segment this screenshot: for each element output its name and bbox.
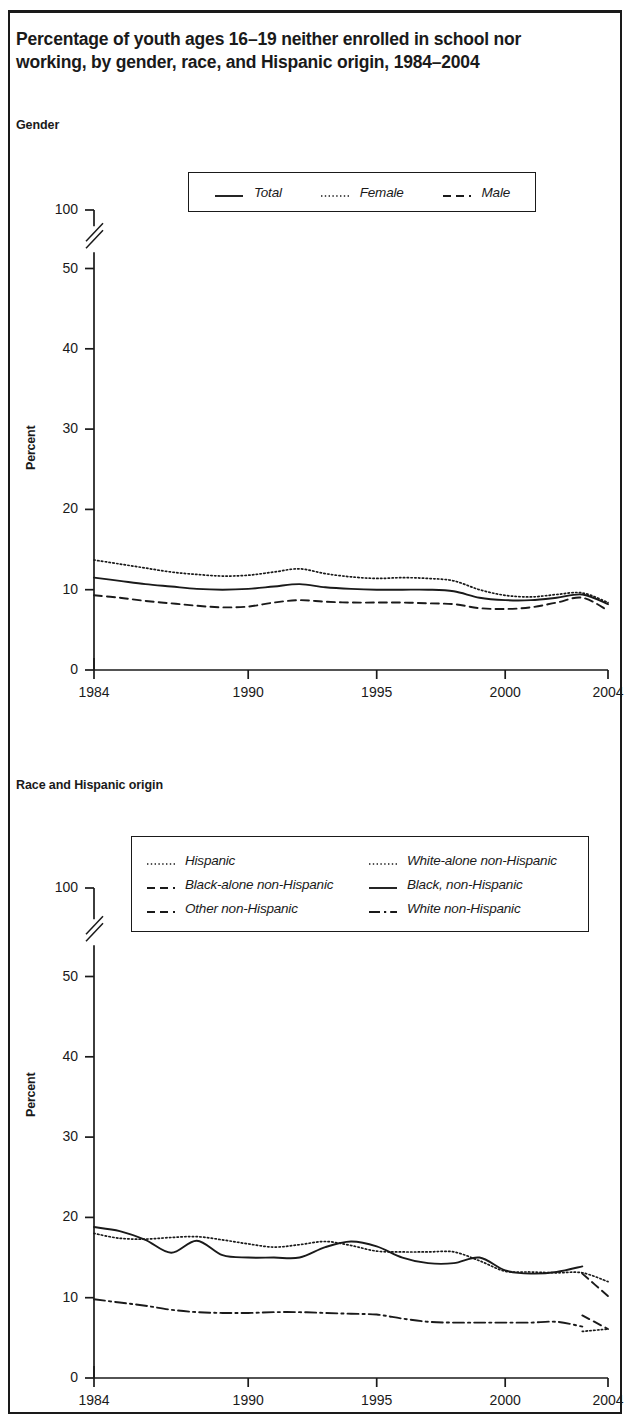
series-line: [582, 1329, 608, 1331]
legend-race: HispanicBlack-alone non-HispanicOther no…: [131, 836, 589, 932]
legend-gender: TotalFemaleMale: [188, 172, 536, 212]
x-tick-label: 2004: [576, 684, 630, 700]
y-tick-label: 20: [36, 500, 78, 516]
legend-key-dashed: [442, 191, 472, 201]
legend-key-dashed: [146, 907, 176, 917]
x-tick-label: 1990: [216, 684, 280, 700]
x-tick-label: 1995: [345, 1392, 409, 1408]
x-tick-label: 2000: [473, 1392, 537, 1408]
legend-key: [368, 879, 398, 889]
legend-item: Total: [214, 185, 282, 200]
legend-label: Total: [254, 185, 282, 200]
legend-key: [368, 855, 398, 865]
legend-item: Other non-Hispanic: [138, 896, 360, 920]
series-line: [94, 578, 608, 605]
figure-title: Percentage of youth ages 16–19 neither e…: [16, 28, 586, 75]
legend-label: Hispanic: [185, 853, 235, 868]
series-line: [94, 1227, 582, 1274]
y-tick-label: 100: [36, 201, 78, 217]
legend-key: [146, 903, 176, 913]
series-line: [582, 1315, 608, 1329]
y-tick-label: 20: [36, 1208, 78, 1224]
figure-page: Percentage of youth ages 16–19 neither e…: [0, 0, 630, 1422]
legend-label: Male: [482, 185, 510, 200]
legend-label: Female: [360, 185, 404, 200]
bottom-rule: [8, 1412, 622, 1414]
y-tick-label: 0: [36, 661, 78, 677]
legend-key-dotted: [320, 191, 350, 201]
y-tick-label: 40: [36, 340, 78, 356]
y-tick-label: 0: [36, 1369, 78, 1385]
y-tick-label: 50: [36, 968, 78, 984]
y-tick-label: 50: [36, 260, 78, 276]
legend-key-dashed: [146, 883, 176, 893]
plot-area-gender: [0, 150, 630, 730]
y-tick-label: 30: [36, 1128, 78, 1144]
x-tick-label: 2000: [473, 684, 537, 700]
legend-key-dotted: [146, 859, 176, 869]
legend-key-dashdot: [368, 907, 398, 917]
x-tick-label: 1990: [216, 1392, 280, 1408]
legend-key-dotted: [368, 859, 398, 869]
x-tick-label: 1984: [62, 1392, 126, 1408]
y-tick-label: 40: [36, 1048, 78, 1064]
y-tick-label: 100: [36, 879, 78, 895]
y-tick-label: 10: [36, 581, 78, 597]
legend-key: [442, 187, 472, 197]
series-line: [94, 1299, 582, 1326]
y-tick-label: 10: [36, 1289, 78, 1305]
legend-label: Other non-Hispanic: [185, 901, 298, 916]
legend-key-solid: [368, 883, 398, 893]
series-line: [582, 1274, 608, 1296]
legend-key: [368, 903, 398, 913]
panel-subhead-race: Race and Hispanic origin: [16, 778, 163, 792]
legend-label: Black, non-Hispanic: [407, 877, 523, 892]
legend-item: White-alone non-Hispanic: [360, 848, 582, 872]
x-tick-label: 1995: [345, 684, 409, 700]
legend-item: White non-Hispanic: [360, 896, 582, 920]
series-line: [94, 560, 608, 603]
legend-item: Female: [320, 185, 404, 200]
x-tick-label: 1984: [62, 684, 126, 700]
x-tick-label: 2004: [576, 1392, 630, 1408]
legend-item: Black, non-Hispanic: [360, 872, 582, 896]
legend-key: [214, 187, 244, 197]
legend-label: White-alone non-Hispanic: [407, 853, 557, 868]
legend-label: Black-alone non-Hispanic: [185, 877, 333, 892]
y-tick-label: 30: [36, 420, 78, 436]
legend-item: Male: [442, 185, 510, 200]
legend-key: [320, 187, 350, 197]
legend-item: Black-alone non-Hispanic: [138, 872, 360, 896]
legend-key-solid: [214, 191, 244, 201]
legend-key: [146, 879, 176, 889]
legend-key: [146, 855, 176, 865]
chart-gender: [0, 150, 630, 730]
top-rule: [8, 10, 622, 13]
legend-label: White non-Hispanic: [407, 901, 520, 916]
panel-subhead-gender: Gender: [16, 118, 59, 132]
legend-item: Hispanic: [138, 848, 360, 872]
